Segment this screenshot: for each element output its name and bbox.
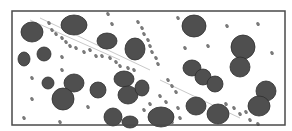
- cell: [231, 35, 255, 59]
- cell: [114, 71, 134, 87]
- cell: [230, 57, 250, 77]
- cell: [37, 47, 51, 61]
- cell: [207, 104, 229, 124]
- cell: [207, 76, 223, 92]
- cell: [18, 52, 30, 66]
- microscopy-image: [0, 0, 292, 131]
- cell: [148, 107, 174, 127]
- cell: [135, 80, 149, 96]
- cell: [21, 22, 43, 42]
- cell: [125, 38, 145, 60]
- cell: [104, 108, 122, 126]
- cell-smear-figure: [0, 0, 292, 131]
- cell: [186, 97, 206, 115]
- cell: [90, 82, 106, 98]
- cell: [52, 88, 74, 110]
- cell: [122, 116, 138, 128]
- cell: [42, 77, 54, 89]
- cell: [182, 15, 206, 37]
- cell: [97, 33, 117, 49]
- cell: [248, 96, 270, 116]
- cell: [61, 15, 87, 35]
